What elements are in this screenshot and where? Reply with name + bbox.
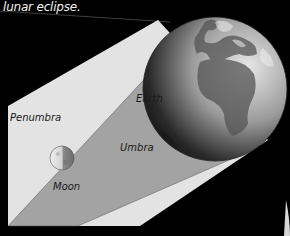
lunar-eclipse-diagram: lunar eclipse. Penumbra Earth Umbra Moon (0, 0, 290, 236)
earth-globe (143, 17, 287, 161)
umbra-label: Umbra (120, 142, 154, 153)
moon-globe (50, 146, 74, 170)
edge-highlight (284, 200, 290, 236)
earth-label: Earth (136, 93, 163, 104)
caption-text: lunar eclipse. (3, 0, 81, 14)
moon-label: Moon (53, 181, 80, 192)
penumbra-label: Penumbra (10, 112, 61, 123)
